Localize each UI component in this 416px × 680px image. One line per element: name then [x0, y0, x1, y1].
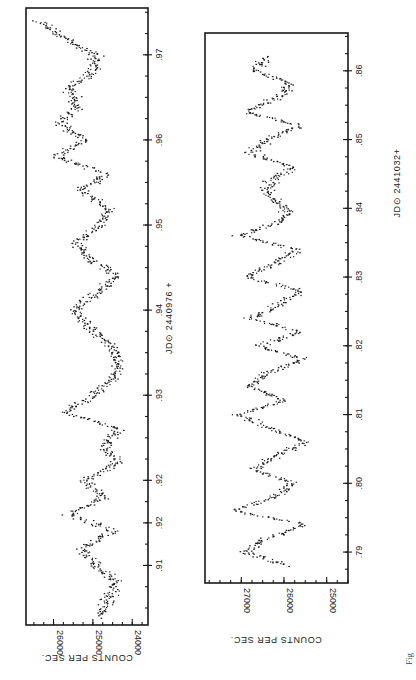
time-tick-label: .83 — [354, 271, 364, 284]
time-tick-label: .92 — [154, 474, 164, 487]
light-curve-figure: .91.92.92.93.94.95.96.97 240002500026000… — [0, 0, 416, 680]
left-light-curve-panel: .91.92.92.93.94.95.96.97 240002500026000… — [26, 8, 174, 663]
time-tick-label: .82 — [354, 340, 364, 353]
time-tick-label: .92 — [154, 517, 164, 530]
time-tick-label: .80 — [354, 477, 364, 490]
time-tick-label: .85 — [354, 133, 364, 146]
right-time-axis-label: JD⊙ 2441032+ — [392, 149, 402, 218]
time-tick-label: .84 — [354, 202, 364, 215]
right-data-points — [232, 56, 309, 567]
time-tick-label: .95 — [154, 219, 164, 232]
counts-tick-label: 25000 — [328, 588, 338, 613]
right-light-curve-panel: .79.80.81.82.83.84.85.86 250002600027000… — [205, 33, 402, 645]
left-time-axis-label: JD⊙ 2440976 + — [164, 282, 174, 354]
counts-tick-label: 25000 — [94, 630, 104, 655]
left-time-axis-ticks: .91.92.92.93.94.95.96.97 — [143, 12, 164, 608]
right-counts-axis-label: COUNTS PER SEC. — [230, 635, 322, 645]
counts-tick-label: 27000 — [242, 588, 252, 613]
left-data-points — [32, 20, 125, 619]
left-plot-frame — [26, 8, 148, 625]
time-tick-label: .97 — [154, 49, 164, 62]
time-tick-label: .86 — [354, 65, 364, 78]
figure-caption-fragment: Fig — [404, 652, 414, 665]
right-plot-frame — [205, 33, 348, 583]
counts-tick-label: 26000 — [285, 588, 295, 613]
time-tick-label: .94 — [154, 304, 164, 317]
counts-tick-label: 24000 — [133, 630, 143, 655]
left-counts-axis-label: COUNTS PER SEC. — [41, 653, 133, 663]
time-tick-label: .93 — [154, 389, 164, 402]
counts-tick-label: 26000 — [55, 630, 65, 655]
time-tick-label: .96 — [154, 134, 164, 147]
time-tick-label: .79 — [354, 546, 364, 559]
time-tick-label: .81 — [354, 408, 364, 421]
right-time-axis-ticks: .79.80.81.82.83.84.85.86 — [343, 36, 364, 569]
time-tick-label: .91 — [154, 559, 164, 572]
